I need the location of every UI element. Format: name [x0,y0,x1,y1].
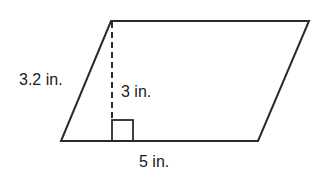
base-length-label: 5 in. [139,154,169,170]
right-angle-marker [112,120,133,141]
parallelogram [61,21,309,141]
side-length-label: 3.2 in. [19,72,63,88]
height-label: 3 in. [121,84,151,100]
